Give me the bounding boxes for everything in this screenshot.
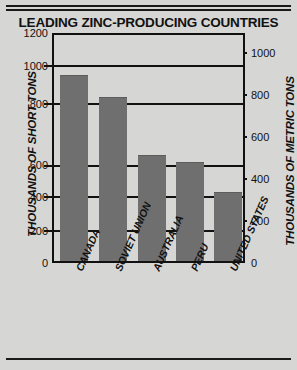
y-axis-left-tickmark-400 bbox=[44, 196, 52, 198]
bar-canada bbox=[60, 75, 88, 261]
y-axis-left-tick-600: 600 bbox=[8, 159, 48, 171]
top-double-rule bbox=[6, 5, 291, 11]
y-axis-left-tickmark-800 bbox=[44, 103, 52, 105]
bottom-rule bbox=[6, 358, 291, 360]
chart-page: LEADING ZINC-PRODUCING COUNTRIES THOUSAN… bbox=[0, 0, 297, 370]
y-axis-right-tick-200: 200 bbox=[251, 215, 293, 227]
y-axis-left-tick-1000: 1000 bbox=[8, 60, 48, 72]
y-axis-right-tick-600: 600 bbox=[251, 131, 293, 143]
bar-peru bbox=[176, 162, 204, 261]
y-axis-right-tick-800: 800 bbox=[251, 89, 293, 101]
top-rule-line-1 bbox=[6, 5, 291, 7]
y-axis-left-tick-400: 400 bbox=[8, 191, 48, 203]
y-axis-right-tick-1000: 1000 bbox=[251, 47, 293, 59]
bar-soviet-union bbox=[99, 97, 127, 261]
y-axis-left-title: THOUSANDS OF SHORT TONS bbox=[26, 59, 38, 249]
top-rule-line-2 bbox=[6, 9, 291, 11]
y-axis-right-tick-0: 0 bbox=[251, 257, 293, 269]
plot-area bbox=[52, 33, 245, 263]
y-axis-right-tick-400: 400 bbox=[251, 173, 293, 185]
bar-series bbox=[54, 35, 243, 261]
y-axis-left-tick-800: 800 bbox=[8, 98, 48, 110]
y-axis-left-tickmark-200 bbox=[44, 230, 52, 232]
bar-united-states bbox=[214, 192, 242, 261]
y-axis-left-tickmark-600 bbox=[44, 165, 52, 167]
y-axis-left-tick-1200: 1200 bbox=[8, 27, 48, 39]
y-axis-left-tick-0: 0 bbox=[8, 257, 48, 269]
y-axis-left-tickmark-1000 bbox=[44, 65, 52, 67]
bar-australia bbox=[138, 155, 166, 261]
y-axis-left-tick-200: 200 bbox=[8, 225, 48, 237]
